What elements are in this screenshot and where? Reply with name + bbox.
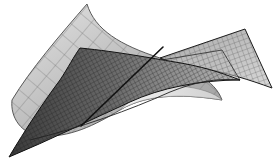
surface-diagram — [0, 0, 277, 164]
surface-plot — [0, 0, 277, 164]
